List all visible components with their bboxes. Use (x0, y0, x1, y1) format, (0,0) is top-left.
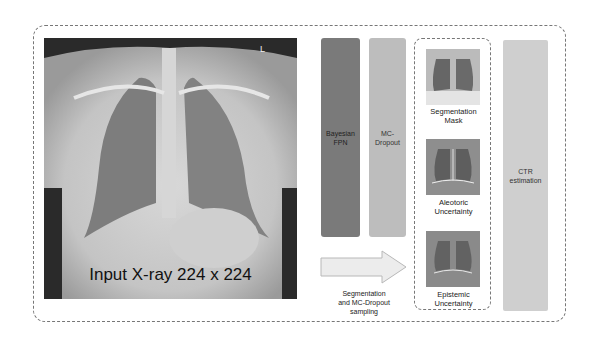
flow-arrow-icon (320, 250, 408, 284)
block-label: CTR (518, 168, 532, 175)
output-label: EpistemicUncertainty (415, 290, 492, 308)
sampling-label-line: Segmentation (342, 290, 385, 297)
side-marker: L (260, 44, 265, 54)
outputs-container: SegmentationMask AleotoricUncertainty Ep… (414, 38, 491, 310)
block-label: Dropout (375, 139, 400, 146)
block-label: FPN (333, 139, 347, 146)
bayesian-fpn-block: BayesianFPN (321, 38, 360, 237)
block-label: MC- (381, 130, 394, 137)
input-xray-image: L Input X-ray 224 x 224 (44, 38, 297, 299)
output-label: AleotoricUncertainty (415, 198, 492, 216)
input-caption: Input X-ray 224 x 224 (44, 265, 297, 285)
output-label: SegmentationMask (415, 107, 492, 125)
block-label: estimation (510, 177, 542, 184)
epistemic-uncertainty-image (426, 231, 480, 287)
segmentation-mask-image (426, 49, 480, 105)
sampling-label-line: and MC-Dropout (338, 299, 390, 306)
sampling-label: Segmentation and MC-Dropout sampling (318, 289, 410, 316)
block-label: Bayesian (326, 130, 355, 137)
ctr-estimation-block: CTRestimation (503, 40, 548, 311)
sampling-label-line: sampling (350, 308, 378, 315)
mc-dropout-block: MC-Dropout (369, 38, 406, 237)
aleatoric-uncertainty-image (426, 139, 480, 195)
